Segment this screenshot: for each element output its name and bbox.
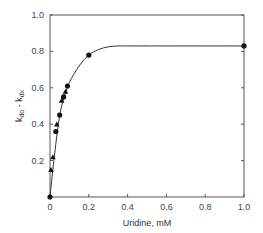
ticks: 00.20.40.60.81.00.20.40.60.81.0	[31, 10, 250, 212]
x-tick-label: 0.8	[199, 202, 212, 212]
y-label-sub1: do	[18, 110, 25, 118]
y-axis-label: kdo - kdx	[14, 89, 25, 122]
y-tick-label: 0.4	[31, 119, 44, 129]
data-points	[47, 43, 246, 199]
fit-curve	[50, 46, 244, 197]
x-tick-label: 0.4	[121, 202, 134, 212]
data-point-circle	[53, 129, 58, 134]
y-label-mid: -	[14, 102, 24, 110]
data-point-circle	[65, 83, 70, 88]
chart: 00.20.40.60.81.00.20.40.60.81.0 Uridine,…	[0, 0, 263, 233]
y-label-sub2: dx	[18, 89, 25, 97]
data-point-circle	[57, 113, 62, 118]
x-tick-label: 0.6	[160, 202, 173, 212]
y-tick-label: 1.0	[31, 10, 44, 20]
data-point-triangle	[63, 89, 69, 94]
y-tick-label: 0.2	[31, 156, 44, 166]
x-tick-label: 1.0	[238, 202, 251, 212]
y-tick-label: 0.8	[31, 46, 44, 56]
x-tick-label: 0.2	[83, 202, 96, 212]
axes	[50, 15, 244, 197]
data-point-circle	[241, 43, 246, 48]
y-tick-label: 0.6	[31, 83, 44, 93]
data-point-circle	[47, 194, 52, 199]
x-axis-label: Uridine, mM	[123, 218, 172, 228]
x-tick-label: 0	[47, 202, 52, 212]
data-point-circle	[86, 52, 91, 57]
plot-frame	[50, 15, 244, 197]
